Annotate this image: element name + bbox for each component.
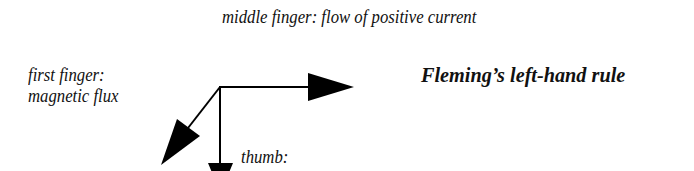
flux-arrow (161, 87, 220, 165)
current-arrow (219, 73, 354, 101)
thumb-arrow (208, 87, 233, 171)
axes-diagram (0, 0, 694, 171)
